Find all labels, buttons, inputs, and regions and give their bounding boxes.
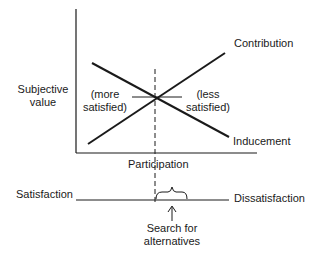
satisfaction-label: Satisfaction bbox=[16, 188, 73, 201]
less-satisfied-line2: satisfied) bbox=[183, 101, 233, 114]
less-satisfied-line1: (less bbox=[183, 88, 233, 101]
more-satisfied-line1: (more bbox=[80, 88, 130, 101]
less-satisfied-label: (less satisfied) bbox=[183, 88, 233, 114]
search-alternatives-line2: alternatives bbox=[138, 235, 206, 248]
more-satisfied-label: (more satisfied) bbox=[80, 88, 130, 114]
inducement-label: Inducement bbox=[233, 135, 290, 148]
y-axis-label-line1: Subjective bbox=[14, 83, 72, 96]
contribution-label: Contribution bbox=[234, 37, 293, 50]
search-alternatives-line1: Search for bbox=[138, 222, 206, 235]
x-axis-label: Participation bbox=[128, 158, 189, 171]
y-axis-label-line2: value bbox=[14, 96, 72, 109]
y-axis-label: Subjective value bbox=[14, 83, 72, 109]
search-alternatives-label: Search for alternatives bbox=[138, 222, 206, 248]
dissatisfaction-label: Dissatisfaction bbox=[234, 192, 305, 205]
search-range-brace bbox=[156, 187, 187, 199]
more-satisfied-line2: satisfied) bbox=[80, 101, 130, 114]
